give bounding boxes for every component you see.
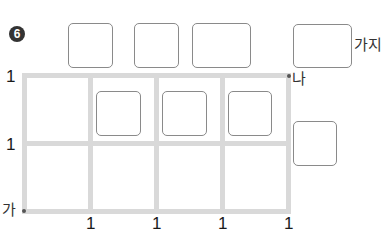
answer-box-right-1[interactable] (293, 121, 337, 166)
answer-box-top-2[interactable] (134, 23, 179, 68)
grid-line-col-0 (22, 73, 27, 214)
answer-box-total[interactable] (293, 24, 352, 68)
answer-box-top-1[interactable] (68, 23, 113, 68)
bottom-axis-label-3: 1 (218, 215, 227, 232)
ways-unit-label: 가지 (354, 38, 382, 53)
bottom-axis-label-4: 1 (284, 215, 293, 232)
grid-line-col-2 (154, 73, 159, 214)
bottom-axis-label-2: 1 (152, 215, 161, 232)
grid-line-col-4 (286, 73, 291, 214)
grid-line-col-3 (220, 73, 225, 214)
end-point-label: 나 (292, 72, 306, 87)
answer-box-inner-1[interactable] (96, 91, 141, 136)
problem-number-badge: 6 (9, 26, 25, 42)
answer-box-inner-2[interactable] (162, 91, 207, 136)
start-point-dot (22, 209, 26, 213)
start-point-label: 가 (2, 203, 16, 218)
answer-box-inner-3[interactable] (228, 91, 272, 136)
left-axis-label-2: 1 (6, 136, 15, 153)
grid-line-col-1 (88, 73, 93, 214)
bottom-axis-label-1: 1 (86, 215, 95, 232)
end-point-dot (287, 74, 291, 78)
left-axis-label-1: 1 (6, 68, 15, 85)
answer-box-top-3[interactable] (192, 23, 251, 68)
